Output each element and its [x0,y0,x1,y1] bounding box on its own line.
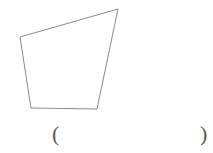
figure-page: ( ) [0,0,213,153]
quadrilateral-outline [20,9,118,109]
answer-blank: ( ) [0,119,213,149]
close-paren: ) [200,119,207,149]
answer-input-space[interactable] [64,119,198,149]
open-paren: ( [52,119,59,149]
